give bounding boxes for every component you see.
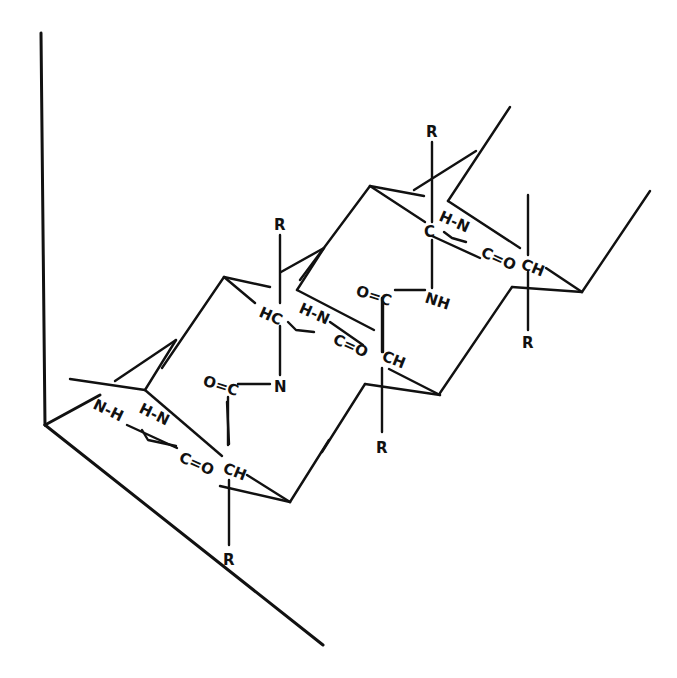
- r-label-mid-top: R: [274, 216, 286, 234]
- label-unit3-co: C=O: [478, 243, 519, 274]
- label-unit3-nh: NH: [423, 289, 452, 314]
- vertical-axis: [41, 33, 45, 425]
- r-label-bottom: R: [223, 551, 235, 569]
- r-label-top-right: R: [426, 123, 438, 141]
- label-unit3-hn: H-N: [436, 207, 472, 236]
- atom-labels: R H-N C C=O CH O=C NH R R HC H-N C=O CH …: [90, 123, 547, 569]
- r-label-right: R: [522, 334, 534, 352]
- label-unit2-hn: H-N: [296, 299, 332, 328]
- r-label-mid-bottom: R: [376, 439, 388, 457]
- label-unit2-oc: O=C: [201, 372, 241, 400]
- label-unit1-ch: CH: [221, 459, 250, 485]
- label-unit2-co: C=O: [330, 330, 371, 361]
- label-unit2-n: N: [274, 378, 287, 396]
- label-unit1-hn: H-N: [136, 399, 172, 429]
- unit-1-plane: [70, 340, 329, 545]
- pleated-sheet-diagram: R H-N C C=O CH O=C NH R R HC H-N C=O CH …: [0, 0, 677, 678]
- label-unit3-ch: CH: [519, 255, 548, 281]
- label-unit1-nh: N-H: [90, 395, 126, 425]
- label-unit1-co: C=O: [176, 448, 217, 479]
- unit-2-plane: [162, 235, 440, 452]
- label-unit2-ch: CH: [380, 347, 409, 373]
- label-unit3-oc: O=C: [354, 282, 394, 310]
- label-unit3-c: C: [424, 223, 435, 241]
